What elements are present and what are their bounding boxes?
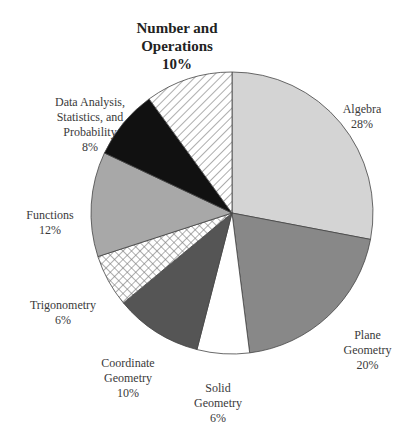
label-percent: 10% bbox=[122, 55, 232, 73]
label-functions: Functions 12% bbox=[10, 193, 90, 253]
label-name: Solid Geometry bbox=[194, 381, 242, 410]
label-name: Functions bbox=[26, 208, 73, 222]
label-plane-geometry: Plane Geometry 20% bbox=[330, 313, 405, 388]
label-solid-geometry: Solid Geometry 6% bbox=[183, 366, 253, 432]
label-data-analysis: Data Analysis, Statistics, and Probabili… bbox=[40, 80, 140, 170]
label-number-operations: Number and Operations 10% bbox=[122, 1, 232, 91]
label-algebra: Algebra 28% bbox=[322, 87, 402, 147]
label-coordinate-geometry: Coordinate Geometry 10% bbox=[88, 341, 168, 416]
label-percent: 10% bbox=[88, 386, 168, 401]
label-percent: 8% bbox=[40, 140, 140, 155]
label-name: Algebra bbox=[343, 102, 382, 116]
label-trigonometry: Trigonometry 6% bbox=[18, 283, 108, 343]
label-name: Coordinate Geometry bbox=[101, 356, 154, 385]
label-name: Plane Geometry bbox=[344, 328, 392, 357]
label-percent: 12% bbox=[10, 223, 90, 238]
label-percent: 28% bbox=[322, 117, 402, 132]
label-percent: 6% bbox=[18, 313, 108, 328]
label-name: Trigonometry bbox=[30, 298, 96, 312]
label-percent: 6% bbox=[183, 411, 253, 426]
label-name: Data Analysis, Statistics, and Probabili… bbox=[55, 95, 125, 139]
label-name: Number and Operations bbox=[137, 20, 218, 54]
label-percent: 20% bbox=[330, 358, 405, 373]
